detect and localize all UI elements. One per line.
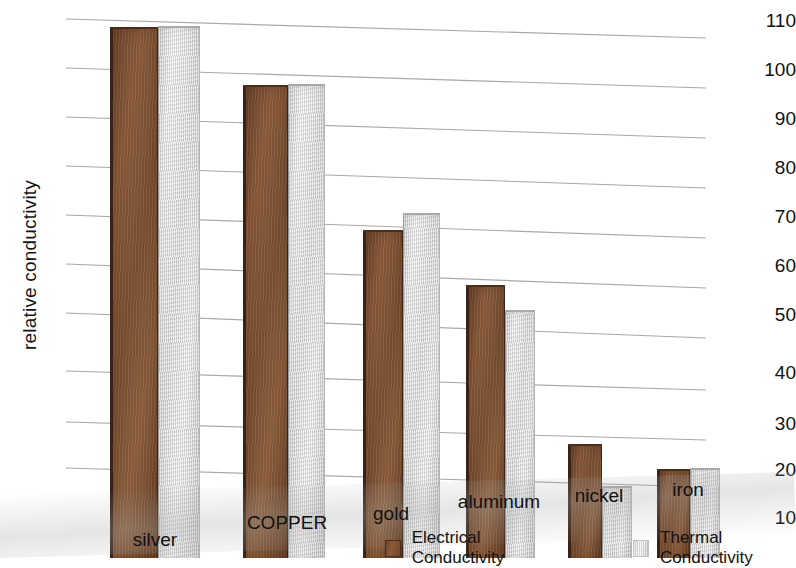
bar-copper-electrical <box>243 86 288 558</box>
legend-swatch-electrical-icon <box>385 540 401 557</box>
bar-aluminum-thermal <box>505 311 535 558</box>
bar-top-cap <box>568 444 602 446</box>
bar-face <box>466 286 505 558</box>
bar-top-cap <box>243 85 288 87</box>
cat-label-copper: COPPER <box>247 512 327 534</box>
legend-label-thermal: Thermal Conductivity <box>660 528 796 568</box>
bar-top-cap <box>158 26 200 28</box>
legend-item-electrical: Electrical Conductivity <box>385 528 553 568</box>
cat-label-nickel: nickel <box>575 485 624 507</box>
bar-top-cap <box>288 84 325 86</box>
plot-area <box>93 0 796 558</box>
cat-label-iron: iron <box>672 479 704 501</box>
bar-top-cap <box>403 213 440 215</box>
legend-label-electrical: Electrical Conductivity <box>412 528 554 568</box>
bar-top-cap <box>110 27 158 29</box>
bar-copper-thermal <box>288 85 325 558</box>
legend-item-thermal: Thermal Conductivity <box>633 528 796 568</box>
bar-top-cap <box>505 310 535 312</box>
bar-silver-thermal <box>158 27 200 558</box>
bar-face <box>110 28 158 558</box>
bar-top-cap <box>466 285 505 287</box>
cat-label-silver: silver <box>133 529 177 551</box>
y-axis-title: relative conductivity <box>19 115 41 415</box>
bar-face <box>288 85 325 558</box>
bar-top-cap <box>363 230 403 232</box>
bar-silver-electrical <box>110 28 158 558</box>
legend-swatch-thermal-icon <box>633 540 649 557</box>
cat-label-aluminum: aluminum <box>458 491 540 513</box>
bar-face <box>243 86 288 558</box>
chart-legend: Electrical Conductivity Thermal Conducti… <box>385 538 796 558</box>
bar-top-cap <box>690 468 720 470</box>
bar-top-cap <box>657 469 690 471</box>
bar-aluminum-electrical <box>466 286 505 558</box>
bar-face <box>158 27 200 558</box>
bar-face <box>505 311 535 558</box>
cat-label-gold: gold <box>373 503 409 525</box>
